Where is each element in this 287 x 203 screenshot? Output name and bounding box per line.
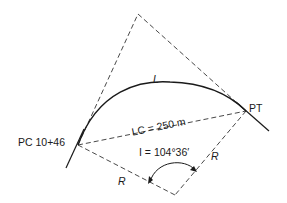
pc-label: PC 10+46 (18, 136, 65, 148)
pt-label: PT (249, 102, 263, 114)
radius-right-label: R (211, 150, 219, 162)
curve-diagram: PC 10+46 PT L LC = 250 m I = 104°36′ R R (0, 0, 287, 203)
arc-length-label: L (153, 73, 159, 85)
intersection-angle-label: I = 104°36′ (139, 146, 189, 158)
radius-left-label: R (118, 175, 126, 187)
forward-tangent-line (138, 14, 246, 111)
long-chord-label: LC = 250 m (131, 115, 187, 138)
circular-curve-arc (78, 82, 246, 145)
back-tangent-extension (66, 129, 84, 168)
diagram-svg: PC 10+46 PT L LC = 250 m I = 104°36′ R R (0, 0, 287, 203)
